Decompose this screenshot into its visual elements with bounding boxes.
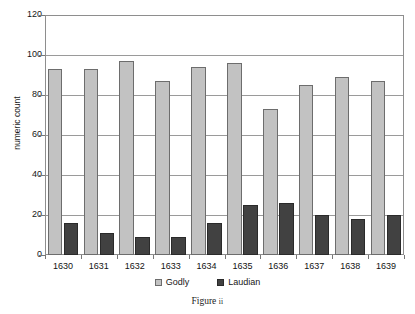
bar-group — [368, 15, 404, 255]
x-tick-mark-1630 — [45, 255, 46, 259]
legend-label-laudian: Laudian — [228, 277, 260, 287]
x-tick-mark-1638 — [332, 255, 333, 259]
y-tick-label-20: 20 — [2, 210, 42, 219]
bar-group — [189, 15, 225, 255]
bar-group — [296, 15, 332, 255]
bar-laudian-1631 — [100, 233, 115, 255]
y-tick-label-80: 80 — [2, 90, 42, 99]
x-tick-label-1632: 1632 — [115, 261, 155, 271]
bar-godly-1637 — [299, 85, 314, 255]
chart-legend: GodlyLaudian — [0, 277, 415, 287]
y-axis-title: numeric count — [12, 73, 22, 173]
y-tick-label-100: 100 — [2, 50, 42, 59]
x-tick-mark-1636 — [260, 255, 261, 259]
bar-godly-1633 — [155, 81, 170, 255]
bar-group — [117, 15, 153, 255]
x-tick-mark-1639 — [368, 255, 369, 259]
x-tick-mark-1634 — [189, 255, 190, 259]
bar-godly-1631 — [84, 69, 99, 255]
bar-godly-1639 — [371, 81, 386, 255]
bar-godly-1638 — [335, 77, 350, 255]
y-tick-label-120: 120 — [2, 10, 42, 19]
bar-laudian-1636 — [279, 203, 294, 255]
x-tick-label-1635: 1635 — [222, 261, 262, 271]
bar-godly-1634 — [191, 67, 206, 255]
bar-laudian-1634 — [207, 223, 222, 255]
y-tick-label-60: 60 — [2, 130, 42, 139]
legend-swatch-godly-icon — [155, 279, 162, 286]
bar-group — [153, 15, 189, 255]
x-tick-mark-end — [404, 255, 405, 259]
bar-laudian-1632 — [135, 237, 150, 255]
y-tick-label-0: 0 — [2, 250, 42, 259]
x-tick-mark-1633 — [153, 255, 154, 259]
bar-godly-1630 — [48, 69, 63, 255]
x-tick-mark-1637 — [296, 255, 297, 259]
chart-title — [95, 0, 345, 3]
bar-laudian-1638 — [351, 219, 366, 255]
legend-swatch-laudian-icon — [217, 279, 224, 286]
x-tick-mark-1635 — [225, 255, 226, 259]
bar-laudian-1637 — [315, 215, 330, 255]
legend-entry-laudian[interactable]: Laudian — [217, 277, 260, 287]
bar-series-area — [45, 15, 404, 255]
figure-container: numeric count 020406080100120 1630163116… — [0, 0, 415, 314]
bar-group — [332, 15, 368, 255]
x-tick-mark-1631 — [81, 255, 82, 259]
bar-group — [45, 15, 81, 255]
x-tick-label-1630: 1630 — [43, 261, 83, 271]
figure-caption-numeral: ii — [219, 297, 224, 306]
bar-laudian-1630 — [64, 223, 79, 255]
y-tick-label-40: 40 — [2, 170, 42, 179]
x-tick-label-1631: 1631 — [79, 261, 119, 271]
bar-laudian-1635 — [243, 205, 258, 255]
bar-group — [225, 15, 261, 255]
x-tick-mark-1632 — [117, 255, 118, 259]
bar-laudian-1633 — [171, 237, 186, 255]
bar-group — [81, 15, 117, 255]
x-tick-label-1634: 1634 — [187, 261, 227, 271]
bar-godly-1636 — [263, 109, 278, 255]
bar-godly-1632 — [119, 61, 134, 255]
legend-label-godly: Godly — [166, 277, 190, 287]
x-tick-label-1639: 1639 — [366, 261, 406, 271]
bar-laudian-1639 — [387, 215, 402, 255]
x-tick-label-1637: 1637 — [294, 261, 334, 271]
figure-caption-label: Figure — [192, 296, 217, 306]
legend-entry-godly[interactable]: Godly — [155, 277, 190, 287]
bar-group — [260, 15, 296, 255]
x-tick-label-1636: 1636 — [258, 261, 298, 271]
x-tick-label-1638: 1638 — [330, 261, 370, 271]
x-axis: 1630163116321633163416351636163716381639 — [45, 255, 404, 277]
x-tick-label-1633: 1633 — [151, 261, 191, 271]
figure-caption: Figure ii — [0, 296, 415, 306]
bar-godly-1635 — [227, 63, 242, 255]
